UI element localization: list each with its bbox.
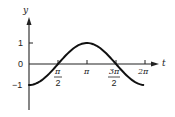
x-tick-label-3pi-over-2-num: 3π — [109, 67, 120, 76]
y-tick-label-0: 0 — [18, 59, 23, 69]
x-tick-label-pi: π — [83, 67, 90, 76]
x-tick-label-2pi: 2π — [137, 67, 149, 76]
chart: y t 1 0 −1 π 2 π 3π 2 2π — [0, 0, 175, 117]
y-axis-label: y — [22, 5, 29, 15]
x-tick-label-pi-over-2-den: 2 — [56, 78, 61, 88]
x-tick-label-3pi-over-2-den: 2 — [112, 78, 117, 88]
y-axis-arrow-icon — [27, 17, 32, 25]
y-tick-label-neg1: −1 — [12, 80, 22, 90]
x-axis-label: t — [162, 58, 166, 68]
x-axis-arrow-icon — [151, 62, 159, 67]
y-tick-label-1: 1 — [18, 38, 23, 48]
